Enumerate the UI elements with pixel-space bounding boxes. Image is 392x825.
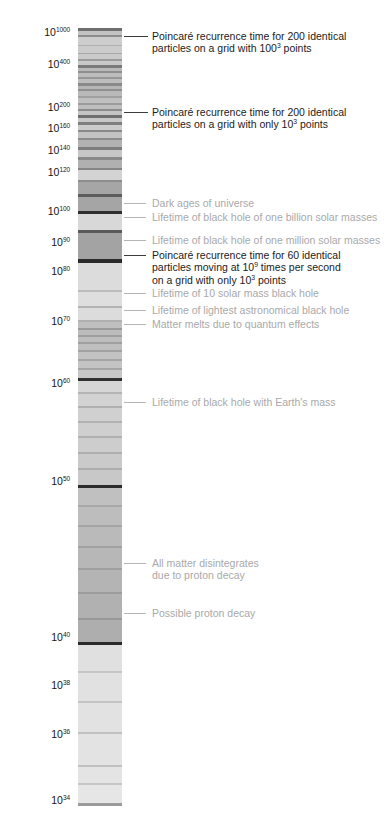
timeline-band [78,292,122,306]
annotation-line: particles on a grid with 1003 points [152,42,346,54]
annotation-line: Lifetime of lightest astronomical black … [152,304,349,316]
axis-tick-label: 1090 [51,237,70,248]
timeline-band [78,352,122,359]
timeline-band [78,527,122,546]
leader-line-bh-10-solar-mass [124,293,146,294]
axis-tick-label: 1060 [51,378,70,389]
timeline-band [78,370,122,378]
leader-line-all-matter-disintegrates [124,563,146,564]
annotation-line: All matter disintegrates [152,557,259,569]
annotation-matter-melts-quantum: Matter melts due to quantum effects [152,318,319,330]
timeline-band [78,570,122,592]
axis-tick-label: 101000 [44,27,70,38]
timeline-band [78,548,122,568]
annotation-line: Poincaré recurrence time for 200 identic… [152,106,346,118]
annotation-poincare-60-particles: Poincaré recurrence time for 60 identica… [152,249,341,286]
annotation-bh-earth-mass: Lifetime of black hole with Earth's mass [152,396,336,408]
timeline-band [78,645,122,671]
timeline-bands [78,28,122,806]
axis-tick-label: 10120 [48,167,70,178]
axis-tick-label: 1040 [51,632,70,643]
axis-tick-label: 1050 [51,476,70,487]
axis-tick-label: 1036 [51,729,70,740]
timeline-band [78,182,122,194]
timeline-band [78,263,122,290]
timeline-band [78,308,122,320]
timeline-band [78,423,122,436]
axis-tick-label: 10100 [48,206,70,217]
timeline-band [78,620,122,642]
timeline-band [78,46,122,53]
axis-tick-label: 1070 [51,316,70,327]
timeline-band [78,703,122,732]
annotation-line: Lifetime of black hole with Earth's mass [152,396,336,408]
timeline-band [78,470,122,485]
axis-tick-label: 10200 [48,102,70,113]
timeline-band [78,408,122,421]
leader-line-poincare-60-particles [124,255,146,256]
annotation-line: Poincaré recurrence time for 200 identic… [152,30,346,42]
annotation-line: on a grid with only 103 points [152,274,341,286]
leader-line-dark-ages [124,203,146,204]
timeline-band [78,438,122,452]
leader-line-bh-one-million-solar [124,240,146,241]
timeline-band [78,767,122,783]
timeline-band [78,381,122,392]
annotation-poincare-200-100cubed: Poincaré recurrence time for 200 identic… [152,30,346,55]
annotation-bh-one-million-solar: Lifetime of black hole of one million so… [152,234,380,246]
leader-line-bh-lightest-astronomical [124,310,146,311]
leader-line-bh-one-billion-solar [124,217,146,218]
leader-line-poincare-200-10cubed [124,112,148,113]
timeline-band [78,507,122,525]
annotation-all-matter-disintegrates: All matter disintegratesdue to proton de… [152,557,259,582]
annotation-possible-proton-decay: Possible proton decay [152,607,255,619]
timeline-band [78,214,122,230]
timeline-band [78,170,122,180]
annotation-line: Possible proton decay [152,607,255,619]
annotation-line: Lifetime of black hole of one million so… [152,234,380,246]
timeline-band [78,150,122,157]
timeline-band [78,197,122,211]
axis-tick-label: 1034 [51,795,70,806]
annotation-line: Lifetime of black hole of one billion so… [152,211,377,223]
timeline-band [78,394,122,406]
leader-line-matter-melts-quantum [124,324,146,325]
timeline-band [78,785,122,803]
axis-tick-label: 1080 [51,266,70,277]
annotation-line: Lifetime of 10 solar mass black hole [152,287,319,299]
annotation-bh-lightest-astronomical: Lifetime of lightest astronomical black … [152,304,349,316]
axis-tick-label: 1038 [51,680,70,691]
annotation-line: due to proton decay [152,569,259,581]
annotation-line: particles on a grid with only 103 points [152,118,346,130]
timeline-band [78,734,122,765]
leader-line-bh-earth-mass [124,402,146,403]
timeline-band [78,594,122,618]
axis-tick-label: 10400 [48,59,70,70]
leader-line-poincare-200-100cubed [124,36,148,37]
annotation-line: Matter melts due to quantum effects [152,318,319,330]
log-timeline-figure: 1010001040010200101601014010120101001090… [0,0,392,825]
timeline-gradient-column [78,28,122,806]
annotation-line: Dark ages of universe [152,197,254,209]
annotation-bh-one-billion-solar: Lifetime of black hole of one billion so… [152,211,377,223]
timeline-band [78,233,122,259]
annotation-dark-ages: Dark ages of universe [152,197,254,209]
annotation-line: Poincaré recurrence time for 60 identica… [152,249,341,261]
annotation-line: particles moving at 109 times per second [152,261,341,273]
timeline-band [78,37,122,45]
timeline-band [78,140,122,147]
timeline-band [78,488,122,505]
annotation-bh-10-solar-mass: Lifetime of 10 solar mass black hole [152,287,319,299]
axis-tick-label: 10160 [48,123,70,134]
timeline-band [78,454,122,468]
timeline-band [78,160,122,168]
timeline-band [78,673,122,701]
annotation-poincare-200-10cubed: Poincaré recurrence time for 200 identic… [152,106,346,131]
axis-tick-label: 10140 [48,145,70,156]
timeline-band [78,803,122,806]
leader-line-possible-proton-decay [124,613,146,614]
timeline-band [78,361,122,368]
